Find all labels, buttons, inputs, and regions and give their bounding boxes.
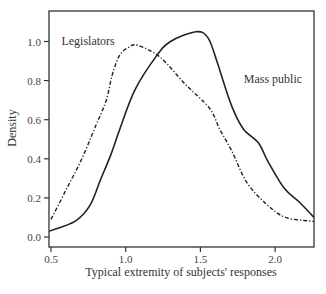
y-tick-label: 0.6 — [27, 114, 41, 126]
y-tick-label: 1.0 — [27, 36, 41, 48]
series-line-mass-public — [50, 32, 314, 232]
annotation-legislators: Legislators — [61, 34, 115, 48]
annotations: LegislatorsMass public — [61, 34, 302, 85]
x-tick-label: 2.0 — [268, 253, 282, 265]
y-tick-label: 0.4 — [27, 153, 41, 165]
x-tick-label: 0.5 — [44, 253, 58, 265]
y-tick-label: 0.8 — [27, 75, 41, 87]
x-tick-label: 1.5 — [194, 253, 208, 265]
annotation-mass-public: Mass public — [244, 72, 302, 86]
y-tick-label: 0.0 — [27, 231, 41, 243]
y-tick-label: 0.2 — [27, 192, 41, 204]
y-axis-label: Density — [5, 109, 19, 146]
density-chart: 0.00.20.40.60.81.0 0.51.01.52.0 Legislat… — [0, 0, 326, 294]
x-axis: 0.51.01.52.0 — [44, 247, 282, 265]
y-axis: 0.00.20.40.60.81.0 — [27, 36, 49, 244]
x-axis-label: Typical extremity of subjects' responses — [85, 265, 277, 279]
series-group — [50, 32, 314, 232]
x-tick-label: 1.0 — [119, 253, 133, 265]
